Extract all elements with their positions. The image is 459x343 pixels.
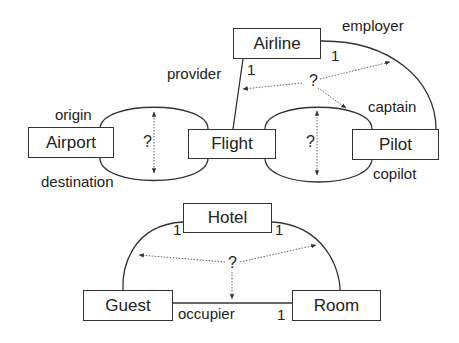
airline-to-employer-arrow: [320, 62, 390, 79]
cardinality-occupier: 1: [277, 306, 285, 323]
entity-airline: Airline: [233, 28, 321, 59]
question-flight-pilot: ?: [306, 133, 315, 151]
role-occupier: occupier: [178, 305, 235, 322]
role-captain: captain: [368, 98, 416, 115]
cardinality-provider: 1: [247, 61, 255, 78]
hotel-to-room-arrow: [240, 245, 316, 262]
provider-line: [233, 59, 243, 129]
cardinality-hotel-room: 1: [275, 221, 283, 238]
role-destination: destination: [41, 173, 114, 190]
captain-arc: [265, 107, 372, 129]
question-hotel: ?: [228, 254, 237, 272]
airline-to-captain-arrow: [318, 88, 346, 108]
cardinality-employer: 1: [331, 47, 339, 64]
entity-room: Room: [292, 290, 381, 321]
entity-airport: Airport: [28, 127, 114, 158]
entity-flight: Flight: [188, 129, 276, 159]
question-airline: ?: [309, 72, 318, 90]
role-provider: provider: [167, 65, 221, 82]
question-airport-flight: ?: [143, 133, 152, 151]
copilot-arc: [265, 158, 372, 182]
airline-to-provider-arrow: [243, 83, 302, 89]
hotel-to-guest-arrow: [139, 255, 225, 262]
role-copilot: copilot: [373, 165, 416, 182]
role-employer: employer: [342, 17, 404, 34]
cardinality-hotel-guest: 1: [173, 221, 181, 238]
entity-hotel: Hotel: [183, 203, 272, 233]
role-origin: origin: [55, 106, 92, 123]
entity-guest: Guest: [83, 290, 173, 321]
entity-pilot: Pilot: [352, 129, 439, 160]
